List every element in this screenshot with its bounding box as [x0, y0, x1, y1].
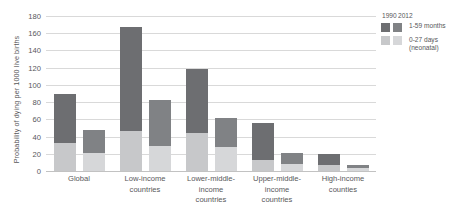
- bar-segment-0-27-days: [252, 160, 274, 171]
- legend-year-2012: 2012: [398, 12, 411, 19]
- x-axis-labels: GlobalLow-incomecountriesLower-middle-in…: [46, 174, 376, 206]
- bar-segment-1-59-months: [186, 69, 208, 134]
- x-axis-label-line: Lower-middle-income: [179, 174, 243, 195]
- legend-row-1-59-months: 1-59 months: [381, 22, 461, 32]
- bar-group: [46, 16, 112, 171]
- legend-row-0-27-days: 0-27 days (neonatal): [381, 36, 461, 53]
- legend-label-line2: (neonatal): [409, 44, 439, 53]
- x-axis-label-line: countries: [245, 195, 309, 206]
- y-axis-tick-label: 80: [33, 98, 41, 107]
- bar-segment-1-59-months: [215, 118, 237, 147]
- legend-label-line1: 1-59 months: [409, 22, 446, 31]
- x-axis-label-line: Global: [47, 174, 111, 185]
- bar-1990[interactable]: [318, 154, 340, 171]
- legend-swatch-1990-1-59-months: [381, 23, 390, 32]
- bar-group: [178, 16, 244, 171]
- legend-swatch-2012-1-59-months: [393, 23, 402, 32]
- bar-segment-0-27-days: [149, 146, 171, 171]
- chart-container: Probability of dying per 1000 live birth…: [0, 0, 464, 208]
- x-axis-label-line: counties: [311, 185, 375, 196]
- bar-1990[interactable]: [186, 69, 208, 171]
- y-axis-tick-label: 60: [33, 115, 41, 124]
- legend-year-header: 1990 2012: [381, 12, 461, 19]
- bar-segment-1-59-months: [54, 94, 76, 143]
- bar-segment-0-27-days: [347, 168, 369, 171]
- bar-2012[interactable]: [281, 153, 303, 171]
- bar-segment-0-27-days: [120, 131, 142, 171]
- x-axis-label-line: Low-income: [113, 174, 177, 185]
- y-axis-title: Probability of dying per 1000 live birth…: [12, 20, 21, 180]
- legend-label-0-27-days: 0-27 days (neonatal): [405, 36, 439, 53]
- y-axis-tick-label: 120: [28, 63, 41, 72]
- axis-baseline: 0: [46, 171, 376, 172]
- bar-group: [112, 16, 178, 171]
- x-axis-label-line: countries: [179, 195, 243, 206]
- x-axis-label: Global: [46, 174, 112, 206]
- bar-segment-1-59-months: [318, 154, 340, 165]
- x-axis-label: High-incomecounties: [310, 174, 376, 206]
- plot-area: 180160140120100806040200: [46, 16, 376, 171]
- y-axis-tick-label: 40: [33, 132, 41, 141]
- bar-segment-0-27-days: [54, 143, 76, 171]
- x-axis-label-line: High-income: [311, 174, 375, 185]
- x-axis-label-line: Upper-middle-income: [245, 174, 309, 195]
- y-axis-tick-label: 160: [28, 29, 41, 38]
- bar-segment-0-27-days: [186, 133, 208, 171]
- bar-1990[interactable]: [120, 27, 142, 171]
- y-axis-tick-label: 100: [28, 80, 41, 89]
- bar-segment-0-27-days: [83, 153, 105, 171]
- y-axis-tick-label: 0: [37, 167, 41, 176]
- bar-2012[interactable]: [347, 165, 369, 171]
- x-axis-label: Lower-middle-incomecountries: [178, 174, 244, 206]
- legend-swatch-1990-0-27-days: [381, 36, 390, 45]
- legend-year-1990: 1990: [382, 12, 395, 19]
- bar-1990[interactable]: [54, 94, 76, 171]
- bar-2012[interactable]: [215, 118, 237, 171]
- legend-label-1-59-months: 1-59 months: [405, 22, 446, 31]
- bar-1990[interactable]: [252, 123, 274, 171]
- bar-group: [310, 16, 376, 171]
- x-axis-label: Upper-middle-incomecountries: [244, 174, 310, 206]
- bar-groups: [46, 16, 376, 171]
- y-axis-tick-label: 20: [33, 149, 41, 158]
- bar-group: [244, 16, 310, 171]
- y-axis-tick-label: 180: [28, 12, 41, 21]
- bar-segment-1-59-months: [149, 100, 171, 146]
- x-axis-label-line: countries: [113, 185, 177, 196]
- bar-segment-1-59-months: [83, 130, 105, 153]
- bar-segment-0-27-days: [318, 165, 340, 171]
- bar-segment-1-59-months: [252, 123, 274, 160]
- bar-segment-0-27-days: [215, 147, 237, 171]
- x-axis-label: Low-incomecountries: [112, 174, 178, 206]
- bar-2012[interactable]: [83, 130, 105, 171]
- bar-segment-1-59-months: [281, 153, 303, 164]
- legend-label-line1: 0-27 days: [409, 36, 439, 45]
- bar-segment-0-27-days: [281, 164, 303, 171]
- legend-swatch-2012-0-27-days: [393, 36, 402, 45]
- bar-segment-1-59-months: [120, 27, 142, 130]
- y-axis-tick-label: 140: [28, 46, 41, 55]
- bar-2012[interactable]: [149, 100, 171, 171]
- chart-legend: 1990 2012 1-59 months 0-27 days (neonata…: [381, 12, 461, 57]
